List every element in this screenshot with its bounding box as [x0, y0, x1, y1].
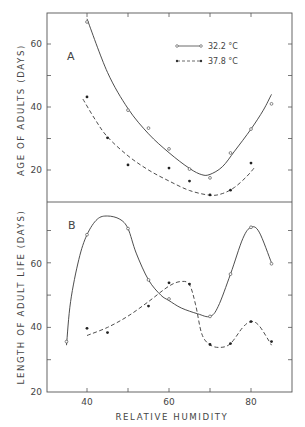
open-circle-marker-icon [250, 226, 253, 229]
axis-ticks [47, 13, 292, 392]
open-circle-marker-icon [229, 152, 232, 155]
xtick-40: 40 [81, 397, 93, 407]
legend-filled-marker-icon [176, 60, 178, 62]
filled-circle-marker-icon [250, 320, 253, 323]
ytick-b-20: 20 [31, 387, 43, 397]
open-circle-marker-icon [127, 227, 130, 230]
open-circle-marker-icon [270, 102, 273, 105]
open-circle-marker-icon [270, 262, 273, 265]
ytick-a-60: 60 [31, 39, 43, 49]
filled-circle-marker-icon [250, 162, 253, 165]
xtick-60: 60 [163, 397, 175, 407]
panel-label-b: B [68, 219, 76, 232]
legend-label-37: 37.8 °C [208, 57, 238, 66]
filled-circle-marker-icon [86, 96, 89, 99]
filled-circle-marker-icon [106, 136, 109, 139]
xtick-80: 80 [245, 397, 257, 407]
filled-circle-marker-icon [86, 327, 89, 330]
open-circle-marker-icon [229, 273, 232, 276]
x-axis-title: RELATIVE HUMIDITY [116, 412, 229, 422]
filled-circle-marker-icon [188, 283, 191, 286]
open-circle-marker-icon [209, 176, 212, 179]
open-circle-marker-icon [147, 127, 150, 130]
curve-b-solid [67, 216, 272, 345]
filled-circle-marker-icon [127, 164, 130, 167]
open-circle-marker-icon [168, 298, 171, 301]
ytick-a-40: 40 [31, 102, 43, 112]
y-axis-title-b: LENGTH OF ADULT LIFE (DAYS) [16, 210, 26, 385]
filled-circle-marker-icon [168, 281, 171, 284]
ytick-b-60: 60 [31, 259, 43, 269]
legend-filled-marker-icon [200, 60, 202, 62]
filled-circle-marker-icon [147, 305, 150, 308]
open-circle-marker-icon [86, 233, 89, 236]
open-circle-marker-icon [168, 147, 171, 150]
curve-b-dashed [87, 281, 272, 347]
open-circle-marker-icon [147, 279, 150, 282]
ytick-a-20: 20 [31, 165, 43, 175]
open-circle-marker-icon [65, 340, 68, 343]
filled-circle-marker-icon [106, 331, 109, 334]
open-circle-marker-icon [250, 128, 253, 131]
ytick-b-40: 40 [31, 322, 43, 332]
legend-open-marker-icon [176, 45, 179, 48]
legend: 32.2 °C 37.8 °C [176, 42, 239, 66]
filled-circle-marker-icon [188, 180, 191, 183]
open-circle-marker-icon [188, 168, 191, 171]
filled-circle-marker-icon [209, 193, 212, 196]
plot-frame [47, 13, 292, 392]
legend-label-32: 32.2 °C [208, 42, 238, 51]
filled-circle-marker-icon [229, 342, 232, 345]
open-circle-marker-icon [127, 109, 130, 112]
figure: 60 40 20 60 40 20 40 60 80 RELATIVE HUMI… [0, 0, 305, 427]
filled-circle-marker-icon [209, 343, 212, 346]
open-circle-marker-icon [86, 21, 89, 24]
open-circle-marker-icon [209, 315, 212, 318]
data-series [65, 19, 273, 348]
filled-circle-marker-icon [270, 340, 273, 343]
filled-circle-marker-icon [229, 189, 232, 192]
legend-open-marker-icon [200, 45, 203, 48]
filled-circle-marker-icon [168, 167, 171, 170]
panel-label-a: A [67, 50, 75, 63]
y-axis-title-a: AGE OF ADULTS (DAYS) [16, 44, 26, 176]
curve-a-solid [87, 19, 272, 176]
